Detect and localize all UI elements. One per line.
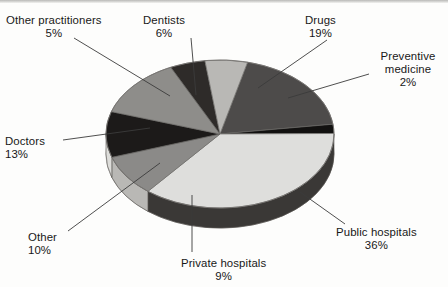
slice-label-doctors: Doctors 13% xyxy=(5,135,45,161)
slice-label-name: Doctors xyxy=(5,135,45,147)
slice-label-value: 6% xyxy=(143,27,185,40)
slice-label-other: Other 10% xyxy=(28,231,57,257)
slice-label-name: Preventive medicine xyxy=(381,50,436,75)
slice-label-drugs: Drugs 19% xyxy=(305,14,336,40)
slice-label-value: 2% xyxy=(371,76,445,89)
slice-label-value: 9% xyxy=(181,270,266,283)
slice-label-name: Private hospitals xyxy=(181,257,266,269)
slice-label-value: 5% xyxy=(6,27,102,40)
slice-label-public-hospitals: Public hospitals 36% xyxy=(336,226,417,252)
slice-label-value: 13% xyxy=(5,148,45,161)
slice-label-value: 10% xyxy=(28,244,57,257)
leader-line-public-hospitals xyxy=(300,192,345,224)
slice-label-value: 36% xyxy=(336,239,417,252)
slice-label-name: Other practitioners xyxy=(6,14,102,26)
pie-body xyxy=(106,60,334,228)
slice-label-name: Drugs xyxy=(305,14,336,26)
slice-label-private-hospitals: Private hospitals 9% xyxy=(181,257,266,283)
slice-label-name: Other xyxy=(28,231,57,243)
slice-label-other-practitioners: Other practitioners 5% xyxy=(6,14,102,40)
slice-label-preventive-medicine: Preventive medicine 2% xyxy=(371,50,445,89)
slice-label-dentists: Dentists 6% xyxy=(143,14,185,40)
slice-label-name: Public hospitals xyxy=(336,226,417,238)
slice-label-name: Dentists xyxy=(143,14,185,26)
slice-label-value: 19% xyxy=(305,27,336,40)
leader-line-other-practitioners xyxy=(74,38,170,96)
